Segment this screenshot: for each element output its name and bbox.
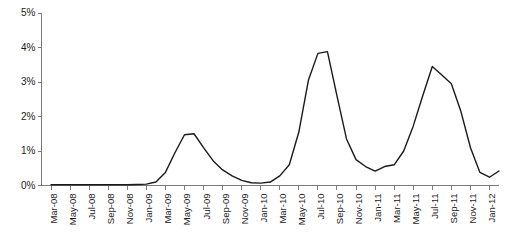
y-tick-label: 1% [21,145,36,156]
x-tick-label: Jul-08 [86,194,97,220]
x-tick-label: Mar-11 [391,194,402,223]
y-tick-label: 2% [21,111,36,122]
series-line-series-1 [51,52,499,185]
x-tick-label: Jan-12 [486,194,497,223]
y-tick-label: 3% [21,76,36,87]
chart-container: 0%1%2%3%4%5% Mar-08May-08Jul-08Sep-08Nov… [0,0,511,241]
x-tick-label: Sep-11 [448,194,459,224]
x-tick-label: Jul-11 [429,194,440,219]
x-tick-label: Mar-08 [48,194,59,224]
y-tick-label: 4% [21,42,36,53]
x-tick-label: Jan-10 [258,194,269,223]
line-chart: 0%1%2%3%4%5% Mar-08May-08Jul-08Sep-08Nov… [0,0,511,241]
y-axis: 0%1%2%3%4%5% [21,7,41,191]
y-tick-label: 0% [21,180,36,191]
x-tick-label: Jan-09 [143,194,154,223]
x-tick-label: Sep-08 [105,194,116,225]
series-group [51,52,499,185]
x-tick-label: Mar-10 [277,194,288,224]
x-tick-label: Mar-09 [162,194,173,224]
x-tick-label: May-11 [410,194,421,225]
x-tick-label: May-10 [296,194,307,226]
y-tick-label: 5% [21,7,36,18]
x-tick-label: Nov-10 [353,194,364,225]
x-tick-label: Nov-11 [467,194,478,224]
x-tick-label: Sep-09 [220,194,231,225]
x-tick-label: Jan-11 [372,194,383,222]
x-tick-label: May-09 [181,194,192,226]
x-axis: Mar-08May-08Jul-08Sep-08Nov-08Jan-09Mar-… [42,186,500,226]
x-tick-label: May-08 [67,194,78,226]
x-tick-label: Jul-10 [315,194,326,220]
x-tick-label: Nov-08 [124,194,135,225]
x-tick-label: Nov-09 [239,194,250,225]
x-tick-label: Jul-09 [201,194,212,220]
x-tick-label: Sep-10 [334,194,345,225]
